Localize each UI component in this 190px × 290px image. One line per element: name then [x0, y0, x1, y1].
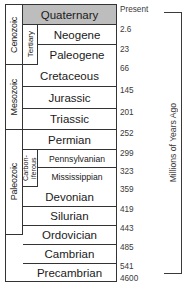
- period-permian: Permian: [23, 130, 116, 150]
- period-mississippian-label: Mississippian: [51, 172, 102, 182]
- era-mesozoic: Mesozoic: [6, 65, 23, 130]
- period-paleogene: Paleogene: [38, 45, 116, 64]
- period-cretaceous: Cretaceous: [23, 65, 116, 87]
- sub-era-carboniferous-group: Carbon-iferous Pennsylvanian Mississippi…: [23, 150, 116, 187]
- period-quaternary-label: Quaternary: [41, 9, 99, 21]
- period-permian-label: Permian: [48, 134, 91, 146]
- age-label-present: Present: [120, 5, 148, 14]
- sub-era-carboniferous: Carbon-iferous: [23, 150, 38, 187]
- period-cambrian: Cambrian: [23, 245, 116, 264]
- period-precambrian: Precambrian: [23, 264, 116, 281]
- age-label-201: 201: [120, 108, 134, 117]
- era-mesozoic-label: Mesozoic: [9, 79, 19, 115]
- period-cambrian-label: Cambrian: [45, 248, 95, 260]
- period-ordovician-label: Ordovician: [42, 229, 97, 241]
- era-cenozoic: Cenozoic: [6, 5, 23, 65]
- period-pennsylvanian-label: Pennsylvanian: [49, 154, 105, 164]
- sub-era-carboniferous-label: Carbon-iferous: [23, 155, 38, 181]
- period-precambrian-label: Precambrian: [37, 267, 102, 279]
- age-label-252: 252: [120, 129, 134, 138]
- period-jurassic-label: Jurassic: [48, 92, 90, 104]
- period-mississippian: Mississippian: [38, 168, 116, 186]
- era-cenozoic-label: Cenozoic: [9, 17, 19, 53]
- era-paleozoic: Paleozoic: [6, 130, 23, 235]
- age-label-66: 66: [120, 64, 129, 73]
- age-label-419: 419: [120, 205, 134, 214]
- age-labels-column: Present 2.6 23 66 145 201 252 299 323 35…: [120, 0, 156, 290]
- period-neogene-label: Neogene: [54, 29, 101, 41]
- period-pennsylvanian: Pennsylvanian: [38, 150, 116, 168]
- era-precambrian-blank: [6, 235, 23, 281]
- axis-title-label: Millions of Years Ago: [168, 103, 178, 182]
- age-label-541: 541: [120, 262, 134, 271]
- period-devonian: Devonian: [23, 187, 116, 207]
- period-quaternary: Quaternary: [23, 5, 116, 25]
- period-triassic-label: Triassic: [50, 113, 89, 125]
- age-label-2-6: 2.6: [120, 25, 131, 34]
- period-silurian: Silurian: [23, 207, 116, 226]
- period-cretaceous-label: Cretaceous: [40, 70, 99, 82]
- axis-title: Millions of Years Ago: [168, 4, 178, 282]
- sub-era-tertiary: Tertiary: [23, 25, 38, 65]
- era-column: Cenozoic Mesozoic Paleozoic: [6, 5, 23, 281]
- sub-era-tertiary-label: Tertiary: [26, 31, 35, 57]
- tertiary-periods: Neogene Paleogene: [38, 25, 116, 65]
- carboniferous-periods: Pennsylvanian Mississippian: [38, 150, 116, 187]
- geologic-time-scale-figure: Cenozoic Mesozoic Paleozoic Quaternary T…: [0, 0, 190, 290]
- period-column: Quaternary Tertiary Neogene Paleogene: [23, 5, 116, 281]
- time-scale-table: Cenozoic Mesozoic Paleozoic Quaternary T…: [5, 4, 117, 282]
- period-devonian-label: Devonian: [45, 191, 94, 203]
- age-label-4600: 4600: [120, 274, 138, 283]
- sub-era-tertiary-group: Tertiary Neogene Paleogene: [23, 25, 116, 65]
- age-label-23: 23: [120, 45, 129, 54]
- period-silurian-label: Silurian: [50, 210, 88, 222]
- age-label-299: 299: [120, 149, 134, 158]
- age-label-443: 443: [120, 224, 134, 233]
- period-triassic: Triassic: [23, 109, 116, 130]
- period-neogene: Neogene: [38, 25, 116, 45]
- bracket-vertical-line: [181, 12, 182, 274]
- period-paleogene-label: Paleogene: [50, 49, 105, 61]
- axis-bracket: Millions of Years Ago: [156, 4, 190, 282]
- era-paleozoic-label: Paleozoic: [9, 163, 19, 200]
- age-label-359: 359: [120, 185, 134, 194]
- period-jurassic: Jurassic: [23, 87, 116, 109]
- age-label-485: 485: [120, 243, 134, 252]
- age-label-323: 323: [120, 167, 134, 176]
- age-label-145: 145: [120, 86, 134, 95]
- period-ordovician: Ordovician: [23, 226, 116, 245]
